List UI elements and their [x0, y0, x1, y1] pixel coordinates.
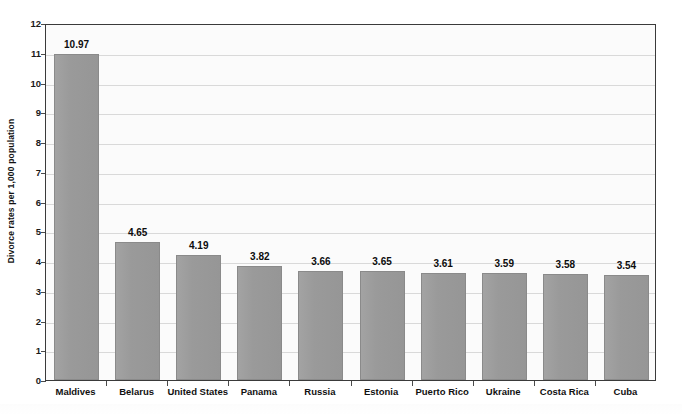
- x-axis-category-label: Estonia: [351, 387, 412, 397]
- divorce-rates-bar-chart: Divorce rates per 1,000 population 01234…: [0, 0, 682, 416]
- bar-value-label: 3.82: [250, 252, 269, 262]
- y-axis-tick-label: 3: [20, 287, 41, 297]
- x-axis-tick-mark: [595, 381, 596, 386]
- bar[interactable]: [115, 242, 160, 380]
- bar[interactable]: [176, 255, 221, 380]
- x-axis-category-label: Russia: [289, 387, 350, 397]
- bar[interactable]: [237, 266, 282, 380]
- bar-group[interactable]: 10.97: [54, 24, 99, 380]
- y-axis-tick-label: 11: [20, 49, 41, 59]
- bar[interactable]: [54, 54, 99, 380]
- x-axis-category-label: Ukraine: [473, 387, 534, 397]
- bar-value-label: 3.59: [495, 259, 514, 269]
- y-axis-tick-labels: 0123456789101112: [20, 24, 41, 381]
- bar-value-label: 3.54: [617, 261, 636, 271]
- y-axis-tick-label: 5: [20, 228, 41, 238]
- bar-group[interactable]: 3.82: [237, 24, 282, 380]
- bar[interactable]: [298, 271, 343, 380]
- y-axis-tick-label: 0: [20, 376, 41, 386]
- bar[interactable]: [604, 275, 649, 380]
- bar-value-label: 3.65: [372, 257, 391, 267]
- y-axis-tick-label: 1: [20, 347, 41, 357]
- x-axis-tick-mark: [534, 381, 535, 386]
- bar-value-label: 3.61: [433, 259, 452, 269]
- y-axis-tick-label: 6: [20, 198, 41, 208]
- x-axis-tick-mark: [351, 381, 352, 386]
- bar-group[interactable]: 3.59: [482, 24, 527, 380]
- x-axis-tick-mark: [473, 381, 474, 386]
- x-axis-category-label: Panama: [228, 387, 289, 397]
- x-axis-category-label: Costa Rica: [534, 387, 595, 397]
- y-axis-tick-label: 4: [20, 257, 41, 267]
- scan-artifact: [0, 404, 682, 416]
- y-axis-tick-label: 12: [20, 19, 41, 29]
- y-axis-tick-label: 7: [20, 168, 41, 178]
- x-axis-category-label: United States: [167, 387, 228, 397]
- bar[interactable]: [543, 274, 588, 381]
- bar-value-label: 10.97: [64, 40, 89, 50]
- bar[interactable]: [482, 273, 527, 380]
- bar[interactable]: [360, 271, 405, 380]
- x-axis-tick-mark: [106, 381, 107, 386]
- x-axis-category-label: Puerto Rico: [412, 387, 473, 397]
- x-axis-category-label: Maldives: [45, 387, 106, 397]
- bar-group[interactable]: 4.65: [115, 24, 160, 380]
- bar-value-label: 4.19: [189, 241, 208, 251]
- y-axis-tick-label: 9: [20, 109, 41, 119]
- bar-group[interactable]: 3.66: [298, 24, 343, 380]
- bar-group[interactable]: 3.65: [360, 24, 405, 380]
- x-axis-tick-mark: [289, 381, 290, 386]
- bar-group[interactable]: 3.61: [421, 24, 466, 380]
- bar-value-label: 3.58: [556, 260, 575, 270]
- bar-group[interactable]: 4.19: [176, 24, 221, 380]
- bars-layer: 10.974.654.193.823.663.653.613.593.583.5…: [46, 25, 655, 380]
- y-axis-tick-label: 8: [20, 138, 41, 148]
- x-axis-tick-mark: [228, 381, 229, 386]
- x-axis-tick-mark: [412, 381, 413, 386]
- x-axis-category-label: Cuba: [595, 387, 656, 397]
- y-axis-title-label: Divorce rates per 1,000 population: [6, 119, 16, 264]
- bar[interactable]: [421, 273, 466, 380]
- x-axis-category-labels: MaldivesBelarusUnited StatesPanamaRussia…: [45, 387, 656, 405]
- x-axis-category-label: Belarus: [106, 387, 167, 397]
- bar-value-label: 4.65: [128, 228, 147, 238]
- bar-group[interactable]: 3.54: [604, 24, 649, 380]
- bar-group[interactable]: 3.58: [543, 24, 588, 380]
- y-axis-tick-label: 2: [20, 317, 41, 327]
- bar-value-label: 3.66: [311, 257, 330, 267]
- y-axis-title: Divorce rates per 1,000 population: [0, 0, 22, 382]
- plot-area: 10.974.654.193.823.663.653.613.593.583.5…: [45, 24, 656, 381]
- y-axis-tick-label: 10: [20, 79, 41, 89]
